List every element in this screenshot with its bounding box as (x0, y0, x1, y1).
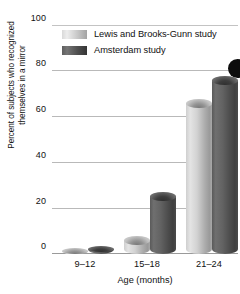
bar-cap (62, 248, 88, 254)
bar-lewis-9-12 (62, 248, 88, 254)
x-tick-label-15-18: 15–18 (117, 259, 177, 269)
legend: Lewis and Brooks-Gunn study Amsterdam st… (62, 27, 238, 59)
bar-amsterdam-21-24 (212, 76, 238, 254)
x-axis-title: Age (months) (52, 275, 238, 285)
bar-body (150, 196, 176, 254)
legend-label-lewis: Lewis and Brooks-Gunn study (94, 29, 217, 39)
bar-chart: Percent of subjects who recognized thems… (0, 0, 240, 294)
bar-amsterdam-15-18 (150, 192, 176, 254)
legend-item-amsterdam: Amsterdam study (62, 43, 238, 57)
bar-cap (186, 99, 212, 108)
y-tick-label-60: 60 (22, 104, 46, 114)
x-tick-label-21-24: 21–24 (179, 259, 239, 269)
y-tick-label-40: 40 (22, 150, 46, 160)
bar-lewis-21-24 (186, 99, 212, 254)
bar-cap (150, 192, 176, 201)
bar-cap (88, 246, 114, 252)
bar-lewis-15-18 (124, 236, 150, 254)
bar-body (186, 103, 212, 254)
legend-swatch-light-icon (62, 30, 87, 39)
x-tick-label-9-12: 9–12 (55, 259, 115, 269)
bar-amsterdam-9-12 (88, 246, 114, 254)
edge-artifact-dot (228, 59, 240, 78)
y-tick-label-80: 80 (22, 58, 46, 68)
y-tick-label-0: 0 (22, 241, 46, 251)
legend-swatch-dark-icon (62, 46, 87, 55)
y-tick-label-20: 20 (22, 196, 46, 206)
legend-label-amsterdam: Amsterdam study (94, 45, 166, 55)
bar-cap (124, 236, 150, 245)
y-tick-label-100: 100 (22, 13, 46, 23)
bar-body (212, 80, 238, 254)
y-axis-title-line2: themselves in a mirror (17, 21, 28, 149)
legend-item-lewis: Lewis and Brooks-Gunn study (62, 27, 238, 41)
y-axis-title-line1: Percent of subjects who recognized (6, 21, 17, 149)
